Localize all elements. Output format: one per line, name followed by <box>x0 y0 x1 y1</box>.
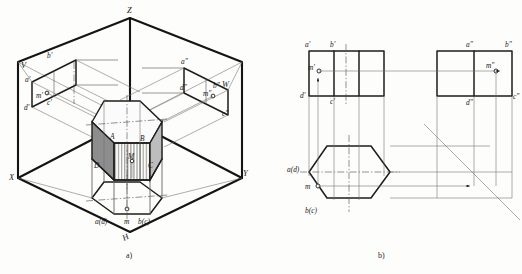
axis-label-y: Y <box>243 169 249 178</box>
w-label-m-dprime: m" <box>203 89 212 98</box>
front-label-m-prime: m' <box>308 63 315 72</box>
front-label-a-prime: a' <box>305 40 311 49</box>
top-label-bc: b(c) <box>305 206 317 215</box>
h-label-bc: b(c) <box>138 217 150 226</box>
h-label-ad: a(d) <box>95 217 108 226</box>
top-label-ad: a(d) <box>287 165 300 174</box>
technical-drawing-canvas: Z X Y V H a' b' m' d' c' <box>0 0 522 274</box>
figure-root: Z X Y V H a' b' m' d' c' <box>0 0 522 274</box>
top-label-m: m <box>305 182 311 191</box>
plane-label-h: H <box>120 232 131 244</box>
caption-a: a) <box>126 251 133 260</box>
front-label-d-prime: d' <box>300 91 306 100</box>
axis-label-x: X <box>8 173 15 182</box>
front-view: a' b' d' c' m' <box>300 40 384 106</box>
vertex-label-C: C <box>148 161 153 170</box>
side-label-d-dprime: d" <box>466 98 474 107</box>
h-label-m: m <box>124 217 130 226</box>
pictorial-view-group: Z X Y V H a' b' m' d' c' <box>8 6 249 260</box>
plane-label-w: W <box>222 80 230 89</box>
plane-label-v: V <box>21 61 27 70</box>
w-label-d-dprime: d" <box>180 83 188 92</box>
w-label-b-dprime: b" <box>213 81 221 90</box>
axis-label-z: Z <box>127 6 132 15</box>
front-label-b-prime: b' <box>330 40 336 49</box>
v-label-d-prime: d' <box>24 103 30 112</box>
vertex-label-A: A <box>109 132 115 141</box>
side-label-a-dprime: a" <box>466 40 474 49</box>
w-label-c-dprime: c" <box>222 109 229 118</box>
vertex-label-M: M <box>127 152 135 161</box>
top-view: a(d) b(c) m <box>287 135 400 215</box>
side-label-b-dprime: b" <box>505 40 513 49</box>
vertex-label-D: D <box>93 161 100 170</box>
v-label-c-prime: c' <box>47 98 52 107</box>
side-view: a" b" d" c" m" <box>437 40 520 107</box>
v-label-b-prime: b' <box>47 51 53 60</box>
w-label-a-dprime: a" <box>181 57 189 66</box>
v-label-m-prime: m' <box>36 91 43 100</box>
caption-b: b) <box>378 251 385 260</box>
side-label-m-dprime: m" <box>486 61 495 70</box>
front-label-c-prime: c' <box>330 97 335 106</box>
vertex-label-B: B <box>140 134 145 143</box>
orthographic-view-group: a' b' d' c' m' a" b" d" c" m" a(d) b(c) … <box>287 40 520 260</box>
side-label-c-dprime: c" <box>513 92 520 101</box>
